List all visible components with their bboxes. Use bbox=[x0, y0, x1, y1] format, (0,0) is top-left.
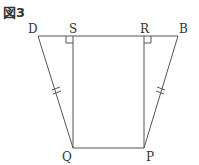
label-B: B bbox=[179, 22, 188, 36]
equal-tick-marks-BP bbox=[156, 87, 165, 94]
label-Q: Q bbox=[62, 150, 72, 164]
segment-BP bbox=[144, 36, 178, 148]
label-D: D bbox=[28, 22, 38, 36]
label-S: S bbox=[69, 22, 77, 36]
label-R: R bbox=[140, 22, 150, 36]
right-angle-mark-R bbox=[144, 36, 151, 43]
label-P: P bbox=[146, 150, 154, 164]
equal-tick-marks-DQ bbox=[52, 87, 61, 94]
segment-DQ bbox=[38, 36, 73, 148]
right-angle-mark-S bbox=[66, 36, 73, 43]
trapezoid-diagram: D S R B Q P bbox=[0, 0, 199, 165]
